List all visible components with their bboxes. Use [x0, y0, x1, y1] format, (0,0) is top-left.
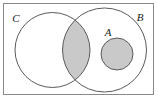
- set-label-a: A: [104, 26, 112, 38]
- set-label-c: C: [12, 12, 20, 24]
- venn-diagram-figure: C B A: [0, 0, 158, 99]
- venn-diagram-canvas: C B A: [0, 0, 158, 99]
- set-regions: [15, 8, 147, 92]
- set-label-b: B: [137, 11, 144, 23]
